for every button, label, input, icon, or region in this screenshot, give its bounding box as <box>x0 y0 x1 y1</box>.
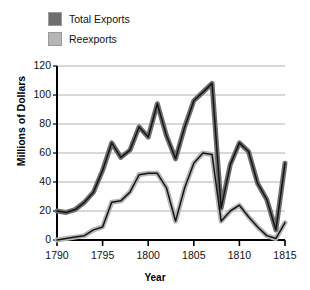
y-tick-label-0: 0 <box>21 233 51 245</box>
x-tick-label-1790: 1790 <box>37 249 77 261</box>
y-tick-label-100: 100 <box>21 88 51 100</box>
chart-plot-area <box>0 0 310 290</box>
x-tick-label-1810: 1810 <box>219 249 259 261</box>
x-tick-label-1815: 1815 <box>265 249 305 261</box>
y-tick-label-40: 40 <box>21 175 51 187</box>
x-tick-label-1800: 1800 <box>128 249 168 261</box>
y-tick-label-80: 80 <box>21 117 51 129</box>
y-tick-label-120: 120 <box>21 59 51 71</box>
y-tick-label-60: 60 <box>21 146 51 158</box>
x-tick-label-1795: 1795 <box>83 249 123 261</box>
y-tick-label-20: 20 <box>21 204 51 216</box>
chart-figure: Total Exports Reexports Millions of Doll… <box>0 0 310 290</box>
x-tick-label-1805: 1805 <box>174 249 214 261</box>
